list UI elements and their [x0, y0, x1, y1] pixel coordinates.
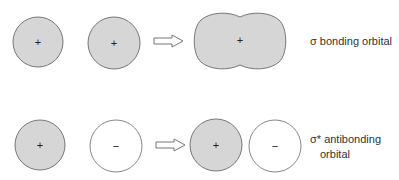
antibonding-orbital-label-line2: orbital [320, 148, 350, 161]
sign-plus: + [35, 36, 41, 48]
sign-minus: − [113, 140, 119, 152]
sign-plus: + [237, 34, 243, 46]
sign-plus: + [213, 139, 219, 151]
bonding-orbital-label: σ bonding orbital [310, 35, 392, 48]
arrow-right-icon [154, 35, 183, 47]
sign-plus: + [37, 139, 43, 151]
antibonding-orbital-label-line1: σ* antibonding [310, 133, 381, 146]
sign-plus: + [111, 37, 117, 49]
sign-minus: − [272, 140, 278, 152]
antibonding-row: + − + − [15, 119, 301, 172]
bonding-row: + + + [13, 13, 286, 69]
arrow-right-icon [156, 139, 185, 151]
